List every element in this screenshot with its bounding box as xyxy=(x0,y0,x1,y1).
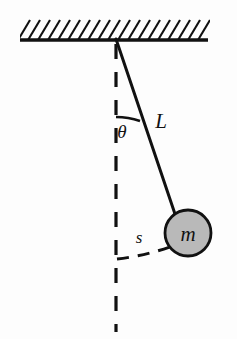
arc-length-dashed-path xyxy=(117,247,170,259)
pendulum-diagram: L θ s m xyxy=(0,0,237,339)
mass-label: m xyxy=(180,222,195,246)
length-label: L xyxy=(154,109,167,133)
arc-length-label: s xyxy=(136,228,143,247)
ceiling-hatching xyxy=(18,20,210,40)
angle-label: θ xyxy=(117,121,126,142)
pendulum-figure-canvas: L θ s m xyxy=(0,0,237,339)
